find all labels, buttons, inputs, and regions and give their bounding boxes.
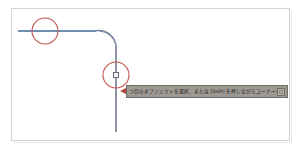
command-prompt-tooltip[interactable]: つ目のオブジェクトを選択、または [Shift] を押しながらコーナーを適用、ま… xyxy=(126,85,288,98)
grip-square-marker[interactable] xyxy=(113,72,119,78)
dropdown-options-button[interactable] xyxy=(277,88,285,96)
document-frame xyxy=(11,8,290,141)
command-prompt-text: つ目のオブジェクトを選択、または [Shift] を押しながらコーナーを適用、ま… xyxy=(127,89,277,95)
screenshot-root: つ目のオブジェクトを選択、または [Shift] を押しながらコーナーを適用、ま… xyxy=(0,0,307,162)
